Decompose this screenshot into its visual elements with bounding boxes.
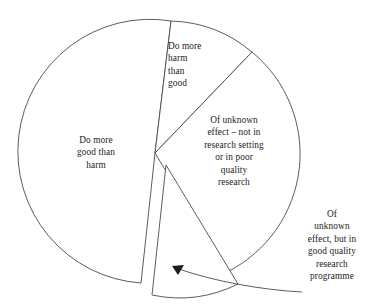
pie-chart: Do more harm than good Do more good than… [0,0,378,307]
pie-label-unknown-effect-poor-quality: Of unknown effect – not in research sett… [182,114,286,188]
pie-label-do-more-good-than-harm: Do more good than harm [48,134,144,171]
pie-label-unknown-effect-good-quality: Of unknown effect, but in good quality r… [288,208,376,282]
pie-label-do-more-harm-than-good: Do more harm than good [168,40,228,90]
